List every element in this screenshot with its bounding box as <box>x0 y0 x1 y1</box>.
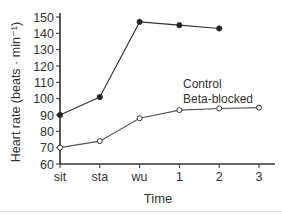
y-tick-label: 100 <box>33 92 54 106</box>
legend-beta-blocked: Beta-blocked <box>183 92 253 106</box>
heart-rate-chart: 60708090100110120130140150sitstawu123 Ti… <box>0 0 282 215</box>
data-point <box>58 145 63 150</box>
y-axis-label: Heart rate (beats · min⁻¹) <box>9 22 23 162</box>
x-tick-label: sta <box>91 170 108 184</box>
x-axis-label: Time <box>144 191 172 206</box>
data-point <box>97 139 102 144</box>
y-tick-label: 80 <box>40 125 54 139</box>
y-tick-label: 70 <box>40 141 54 155</box>
data-point <box>57 112 62 117</box>
x-tick-label: 1 <box>176 170 183 184</box>
y-tick-label: 130 <box>33 43 54 57</box>
legend-control: Control <box>183 77 222 91</box>
y-tick-label: 120 <box>33 60 54 74</box>
y-tick-label: 150 <box>33 11 54 25</box>
data-point <box>257 105 262 110</box>
data-point <box>177 23 182 28</box>
y-tick-label: 90 <box>40 109 54 123</box>
x-tick-label: 3 <box>256 170 263 184</box>
x-tick-label: 2 <box>216 170 223 184</box>
x-tick-label: wu <box>131 170 148 184</box>
y-tick-label: 110 <box>34 76 54 90</box>
data-point <box>137 116 142 121</box>
divider <box>0 211 282 212</box>
data-point <box>97 94 102 99</box>
data-point <box>137 19 142 24</box>
y-tick-label: 60 <box>40 158 54 172</box>
series-lines <box>57 19 261 150</box>
data-point <box>177 108 182 113</box>
x-tick-label: sit <box>54 170 67 184</box>
y-tick-label: 140 <box>33 27 54 41</box>
data-point <box>217 106 222 111</box>
data-point <box>217 26 222 31</box>
